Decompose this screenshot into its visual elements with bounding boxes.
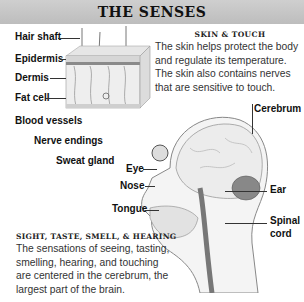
leader-line <box>252 104 253 134</box>
page-title: THE SENSES <box>0 4 304 20</box>
label-fat-cell: Fat cell <box>15 92 49 103</box>
label-epidermis: Epidermis <box>15 53 63 64</box>
leader-line <box>50 78 66 79</box>
label-tongue: Tongue <box>112 203 147 214</box>
leader-line <box>143 169 157 170</box>
label-blood-vessels: Blood vessels <box>15 115 82 126</box>
label-hair-shaft: Hair shaft <box>15 31 61 42</box>
label-nerve-endings: Nerve endings <box>34 135 103 146</box>
label-sweat-gland: Sweat gland <box>56 155 114 166</box>
leader-line <box>46 98 66 99</box>
leader-line <box>225 191 267 192</box>
label-spinal: Spinal <box>270 215 300 226</box>
label-eye: Eye <box>126 163 144 174</box>
label-dermis: Dermis <box>15 72 49 83</box>
skin-touch-heading: SKIN & TOUCH <box>156 30 304 39</box>
skin-cross-section-illustration <box>60 26 155 116</box>
label-cord: cord <box>270 228 292 239</box>
leader-line <box>145 186 155 187</box>
label-nose: Nose <box>120 180 144 191</box>
skin-touch-text: The skin helps protect the body and regu… <box>155 40 303 94</box>
leader-line <box>60 59 66 60</box>
leader-line <box>58 38 80 39</box>
title-banner: THE SENSES <box>0 0 304 24</box>
senses-text: The sensations of seeing, tasting, smell… <box>16 242 176 296</box>
label-ear: Ear <box>270 184 286 195</box>
leader-line <box>145 210 159 211</box>
label-cerebrum: Cerebrum <box>254 103 301 114</box>
senses-heading: SIGHT, TASTE, SMELL, & HEARING <box>16 232 177 241</box>
leader-line <box>225 223 267 224</box>
